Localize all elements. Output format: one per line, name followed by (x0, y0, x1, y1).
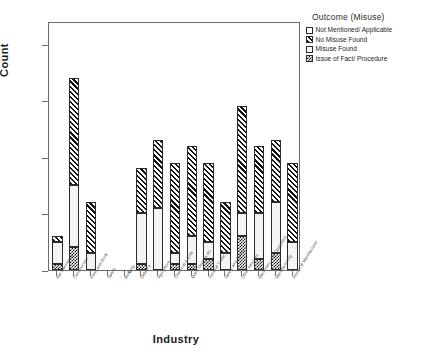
bar-segment[interactable] (237, 106, 247, 214)
bar-column[interactable] (153, 140, 163, 270)
legend-item[interactable]: No Misuse Found (306, 36, 435, 44)
bar-segment[interactable] (254, 146, 264, 214)
legend-swatch-icon (306, 36, 313, 43)
y-axis-title: Count (0, 0, 10, 120)
bar-segment[interactable] (170, 253, 180, 264)
legend-item[interactable]: Not Mentioned/ Applicable (306, 26, 435, 34)
bar-segment[interactable] (86, 202, 96, 253)
bar-segment[interactable] (136, 213, 146, 264)
bar-segment[interactable] (237, 213, 247, 236)
legend-item[interactable]: Issue of Fact/ Procedure (306, 55, 435, 63)
bar-segment[interactable] (136, 168, 146, 213)
bar-segment[interactable] (287, 163, 297, 242)
legend-item-label: Issue of Fact/ Procedure (316, 55, 388, 63)
bar-segment[interactable] (220, 202, 230, 253)
legend-item-label: Misuse Found (316, 45, 357, 53)
x-axis-title: Industry (0, 333, 352, 345)
legend-swatch-icon (306, 27, 313, 34)
legend: Outcome (Misuse) Not Mentioned/ Applicab… (306, 12, 435, 64)
stacked-bar-chart: Count 010203040 Not MentionedConstructio… (0, 0, 435, 361)
legend-item-label: No Misuse Found (316, 36, 368, 44)
bar-segment[interactable] (52, 242, 62, 265)
bar-segment[interactable] (203, 163, 213, 242)
bar-segment[interactable] (153, 208, 163, 270)
bar-segment[interactable] (69, 78, 79, 186)
bars-layer (49, 23, 299, 270)
bar-column[interactable] (170, 162, 180, 270)
bar-column[interactable] (237, 106, 247, 270)
plot-area (48, 22, 300, 271)
bar-segment[interactable] (153, 140, 163, 208)
bar-column[interactable] (69, 78, 79, 270)
legend-title: Outcome (Misuse) (312, 12, 435, 22)
y-tick-mark (42, 271, 48, 272)
legend-item-list: Not Mentioned/ ApplicableNo Misuse Found… (306, 26, 435, 63)
bar-segment[interactable] (52, 236, 62, 242)
bar-segment[interactable] (69, 185, 79, 247)
bar-segment[interactable] (254, 213, 264, 258)
legend-swatch-icon (306, 55, 313, 62)
bar-segment[interactable] (170, 163, 180, 254)
legend-item-label: Not Mentioned/ Applicable (316, 26, 393, 34)
bar-segment[interactable] (271, 140, 281, 202)
legend-swatch-icon (306, 46, 313, 53)
bar-column[interactable] (254, 146, 264, 271)
bar-segment[interactable] (187, 146, 197, 237)
legend-item[interactable]: Misuse Found (306, 45, 435, 53)
bar-column[interactable] (136, 168, 146, 270)
